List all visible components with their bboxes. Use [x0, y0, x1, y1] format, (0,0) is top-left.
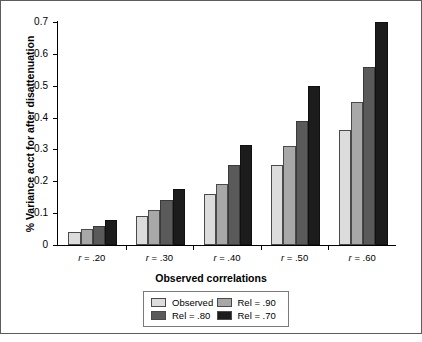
- legend-swatch-rel-80: [151, 311, 166, 320]
- y-axis-tick-mark: [53, 245, 58, 246]
- legend-label-observed: Observed: [172, 297, 213, 308]
- figure-bottom-rule: [0, 333, 422, 334]
- plot-area: 00.10.20.30.40.50.60.7: [58, 22, 396, 245]
- x-axis-category-label: r = .40: [193, 252, 261, 264]
- bar[interactable]: [296, 121, 308, 245]
- bar[interactable]: [351, 102, 363, 245]
- legend-label-rel-70: Rel = .70: [238, 310, 276, 321]
- bar[interactable]: [160, 200, 172, 245]
- legend-item-rel-90[interactable]: Rel = .90: [217, 297, 283, 308]
- x-axis-tick-mark: [126, 245, 127, 250]
- figure-container: 00.10.20.30.40.50.60.7 r = .20r = .30r =…: [0, 0, 422, 342]
- y-axis-tick-label: 0.1: [34, 206, 48, 219]
- bar[interactable]: [105, 220, 117, 245]
- legend-row: Observed Rel = .90: [151, 296, 282, 309]
- legend-swatch-rel-90: [217, 298, 232, 307]
- x-axis-title: Observed correlations: [0, 272, 422, 284]
- y-axis-tick-mark: [53, 149, 58, 150]
- bar[interactable]: [216, 184, 228, 245]
- bar[interactable]: [93, 226, 105, 245]
- y-axis-tick-label: 0.4: [34, 111, 48, 124]
- bar-group: [339, 22, 388, 245]
- y-axis-tick-mark: [53, 54, 58, 55]
- bar[interactable]: [363, 67, 375, 245]
- x-axis-tick-mark: [193, 245, 194, 250]
- legend-label-rel-90: Rel = .90: [238, 297, 276, 308]
- bar-group: [204, 22, 253, 245]
- legend-item-observed[interactable]: Observed: [151, 297, 217, 308]
- bar[interactable]: [271, 165, 283, 245]
- y-axis-tick-label: 0.6: [34, 47, 48, 60]
- y-axis-tick-mark: [53, 22, 58, 23]
- bar[interactable]: [68, 232, 80, 245]
- bar[interactable]: [375, 22, 387, 245]
- y-axis-tick-label: 0.3: [34, 142, 48, 155]
- bar[interactable]: [228, 165, 240, 245]
- bar[interactable]: [283, 146, 295, 245]
- y-axis-tick-label: 0.2: [34, 174, 48, 187]
- y-axis-tick-mark: [53, 118, 58, 119]
- legend-item-rel-80[interactable]: Rel = .80: [151, 310, 217, 321]
- legend-label-rel-80: Rel = .80: [172, 310, 210, 321]
- bar[interactable]: [148, 210, 160, 245]
- x-axis-category-label: r = .30: [126, 252, 194, 264]
- bar[interactable]: [204, 194, 216, 245]
- x-axis-tick-mark: [328, 245, 329, 250]
- legend-swatch-observed: [151, 298, 166, 307]
- x-axis-category-label: r = .60: [328, 252, 396, 264]
- x-axis-line: [57, 245, 396, 246]
- bar-group: [271, 22, 320, 245]
- bar[interactable]: [136, 216, 148, 245]
- x-axis-category-label: r = .50: [261, 252, 329, 264]
- x-axis-tick-mark: [261, 245, 262, 250]
- bar-group: [68, 22, 117, 245]
- y-axis-tick-label: 0: [42, 238, 48, 251]
- chart-legend: Observed Rel = .90 Rel = .80 Rel = .70: [143, 291, 289, 327]
- y-axis-tick-mark: [53, 86, 58, 87]
- y-axis-tick-mark: [53, 181, 58, 182]
- bar-group: [136, 22, 185, 245]
- y-axis-tick-mark: [53, 213, 58, 214]
- bar[interactable]: [173, 189, 185, 245]
- y-axis-tick-label: 0.5: [34, 79, 48, 92]
- bar[interactable]: [81, 229, 93, 245]
- bar[interactable]: [308, 86, 320, 245]
- legend-item-rel-70[interactable]: Rel = .70: [217, 310, 283, 321]
- x-axis-category-label: r = .20: [58, 252, 126, 264]
- legend-swatch-rel-70: [217, 311, 232, 320]
- figure-top-rule: [0, 0, 422, 1]
- bar[interactable]: [339, 130, 351, 245]
- y-axis-tick-label: 0.7: [34, 15, 48, 28]
- legend-row: Rel = .80 Rel = .70: [151, 309, 282, 322]
- y-axis-title: % Variance acct for after disattenuation: [24, 19, 36, 249]
- bar[interactable]: [240, 145, 252, 245]
